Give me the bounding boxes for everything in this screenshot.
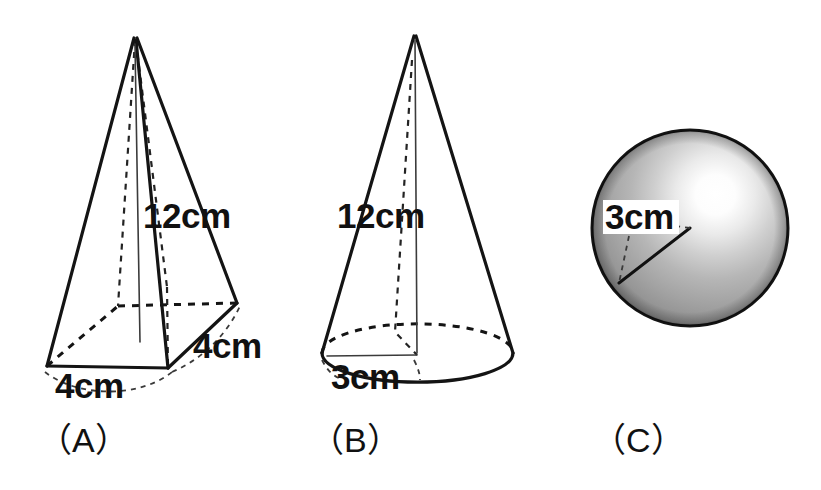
pyramid-hidden-left-edge (47, 306, 118, 366)
leader-tick-cone-centre (414, 360, 420, 380)
caption-figure-a: （A） (38, 421, 129, 459)
caption-figure-c: （C） (592, 421, 685, 459)
figure-c-group: 3cm （C） (592, 130, 788, 459)
cone-slant-edge-right (416, 36, 513, 353)
figure-a-labels: 12cm 4cm 4cm (55, 196, 262, 405)
label-pyramid-base-right: 4cm (193, 326, 262, 365)
pyramid-hidden-back-edge (118, 303, 237, 306)
label-pyramid-height: 12cm (143, 196, 231, 235)
cone-slant-edge-left (322, 36, 414, 353)
label-cone-radius: 3cm (331, 357, 400, 396)
figure-sheet: 12cm 4cm 4cm （A） (0, 0, 821, 490)
label-pyramid-base-front: 4cm (55, 366, 124, 405)
pyramid-edge-apex-to-front-left (47, 38, 134, 366)
label-sphere-radius: 3cm (605, 197, 674, 236)
figure-a-group: 12cm 4cm 4cm （A） (38, 38, 262, 459)
pyramid-hidden-lateral-edge (118, 40, 135, 306)
label-cone-slant-height: 12cm (337, 196, 425, 235)
pyramid-edge-apex-to-right (137, 38, 237, 303)
figure-b-group: 12cm 3cm （B） (310, 36, 513, 459)
caption-figure-b: （B） (310, 421, 401, 459)
cone-radius-line (327, 355, 417, 356)
figure-b-labels: 12cm 3cm (331, 196, 425, 396)
solid-figures-illustration: 12cm 4cm 4cm （A） (0, 0, 821, 490)
